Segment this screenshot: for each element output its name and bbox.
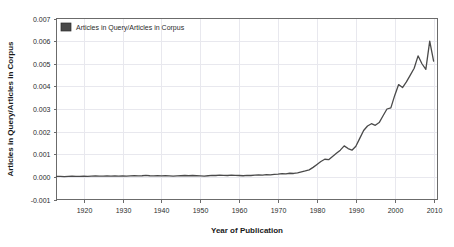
x-tick-label: 2000 <box>388 207 404 214</box>
y-tick-label: 0.006 <box>33 38 51 45</box>
x-tick-label: 1960 <box>232 207 248 214</box>
y-tick-label: 0.002 <box>33 129 51 136</box>
y-tick-label: 0.000 <box>33 174 51 181</box>
y-axis-title: Articles in Query/Articles in Corpus <box>6 41 15 177</box>
y-tick-label: 0.007 <box>33 16 51 23</box>
y-tick-label: 0.005 <box>33 61 51 68</box>
legend-swatch-icon <box>61 23 71 31</box>
x-tick-label: 1930 <box>116 207 132 214</box>
y-tick-label: -0.001 <box>31 197 51 204</box>
y-tick-label: 0.003 <box>33 106 51 113</box>
x-tick-label: 1970 <box>271 207 287 214</box>
x-tick-label: 1940 <box>154 207 170 214</box>
x-tick-label: 2010 <box>427 207 443 214</box>
y-tick-label: 0.001 <box>33 151 51 158</box>
chart-background <box>0 0 454 247</box>
x-tick-label: 1980 <box>310 207 326 214</box>
x-tick-label: 1990 <box>349 207 365 214</box>
x-tick-label: 1920 <box>77 207 93 214</box>
chart-figure: 1920193019401950196019701980199020002010… <box>0 0 454 247</box>
x-tick-label: 1950 <box>193 207 209 214</box>
y-tick-label: 0.004 <box>33 83 51 90</box>
line-chart: 1920193019401950196019701980199020002010… <box>0 0 454 247</box>
legend-label: Articles in Query/Articles in Corpus <box>76 24 185 32</box>
chart-legend: Articles in Query/Articles in Corpus <box>61 23 185 32</box>
x-axis-title: Year of Publication <box>211 226 283 235</box>
